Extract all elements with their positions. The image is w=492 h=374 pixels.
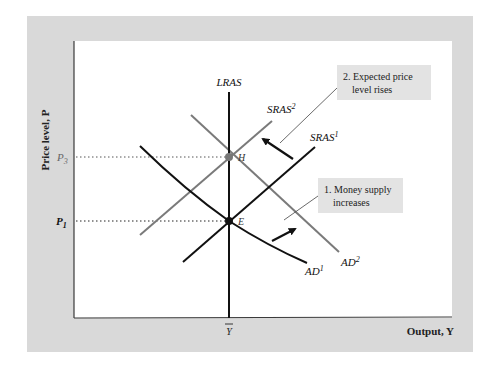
money-supply-callout: 1. Money supply increases	[318, 178, 403, 213]
sras2-label: SRAS2	[267, 102, 295, 115]
x-axis-title: Output, Y	[407, 325, 454, 337]
point-e-marker	[225, 217, 233, 225]
y-axis-title: Price level, P	[39, 109, 51, 170]
sras1-label: SRAS1	[310, 130, 338, 143]
expected-price-callout: 2. Expected price level rises	[337, 65, 431, 100]
expected-price-callout-line2: level rises	[352, 84, 392, 95]
lras-label: LRAS	[215, 76, 242, 88]
expected-price-callout-line1: 2. Expected price	[343, 71, 413, 82]
point-e-label: E	[237, 216, 244, 227]
point-h-marker	[225, 153, 233, 161]
point-h-label: H	[237, 152, 246, 163]
money-supply-callout-line1: 1. Money supply	[324, 184, 392, 195]
ad-as-chart: Price level, P Output, Y P3 P1 Y H E LRA…	[0, 0, 492, 374]
money-supply-callout-line2: increases	[333, 197, 370, 208]
